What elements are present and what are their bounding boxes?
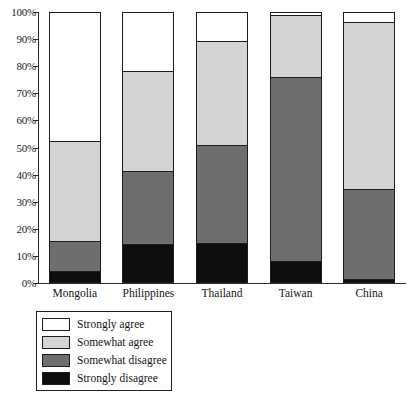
bar-segment[interactable] xyxy=(271,15,321,77)
legend-swatch xyxy=(42,336,70,349)
bar-segment[interactable] xyxy=(50,271,100,282)
bar-segment[interactable] xyxy=(50,241,100,271)
bar-segment[interactable] xyxy=(197,41,247,145)
legend-swatch xyxy=(42,372,70,385)
stacked-bar[interactable] xyxy=(343,12,395,283)
chart-container: 100%90%80%70%60%50%40%30%20%10%0% Mongol… xyxy=(0,0,411,399)
legend-label: Somewhat agree xyxy=(77,336,153,349)
bar-segment[interactable] xyxy=(271,77,321,261)
legend-label: Strongly disagree xyxy=(77,372,158,385)
bar-segment[interactable] xyxy=(344,22,394,189)
bar-segment[interactable] xyxy=(344,189,394,279)
y-axis-tick-label: 90% xyxy=(0,34,36,44)
bar-segment[interactable] xyxy=(123,13,173,71)
bar-segment[interactable] xyxy=(50,141,100,241)
y-axis-tick-label: 10% xyxy=(0,251,36,261)
legend-item[interactable]: Strongly disagree xyxy=(37,369,171,387)
y-axis-tick-label: 80% xyxy=(0,61,36,71)
legend-swatch xyxy=(42,318,70,331)
y-axis-tick-label: 30% xyxy=(0,197,36,207)
x-axis-line xyxy=(38,283,406,284)
chart-legend: Strongly agreeSomewhat agreeSomewhat dis… xyxy=(36,311,172,391)
y-axis-tick-label: 40% xyxy=(0,170,36,180)
stacked-bar[interactable] xyxy=(196,12,248,283)
legend-swatch xyxy=(42,354,70,367)
bar-segment[interactable] xyxy=(197,145,247,243)
legend-item[interactable]: Somewhat disagree xyxy=(37,351,171,369)
bar-segment[interactable] xyxy=(123,71,173,171)
y-axis-tick-label: 50% xyxy=(0,143,36,153)
bar-segment[interactable] xyxy=(197,13,247,41)
bar-segment[interactable] xyxy=(197,243,247,282)
legend-item[interactable]: Somewhat agree xyxy=(37,333,171,351)
y-axis-tick-mark xyxy=(33,283,38,284)
stacked-bar[interactable] xyxy=(49,12,101,283)
stacked-bar[interactable] xyxy=(122,12,174,283)
legend-label: Somewhat disagree xyxy=(77,354,167,367)
legend-item[interactable]: Strongly agree xyxy=(37,315,171,333)
y-axis-tick-label: 70% xyxy=(0,88,36,98)
bar-segment[interactable] xyxy=(50,13,100,141)
x-axis-category-label: China xyxy=(324,286,411,300)
y-axis-tick-label: 100% xyxy=(0,7,36,17)
bar-segment[interactable] xyxy=(344,13,394,22)
y-axis-tick-label: 20% xyxy=(0,224,36,234)
legend-label: Strongly agree xyxy=(77,318,144,331)
bar-segment[interactable] xyxy=(344,279,394,282)
stacked-bar[interactable] xyxy=(270,12,322,283)
bar-segment[interactable] xyxy=(123,244,173,282)
bar-segment[interactable] xyxy=(123,171,173,244)
y-axis-tick-label: 60% xyxy=(0,115,36,125)
bar-segment[interactable] xyxy=(271,261,321,282)
plot-area xyxy=(38,12,406,283)
